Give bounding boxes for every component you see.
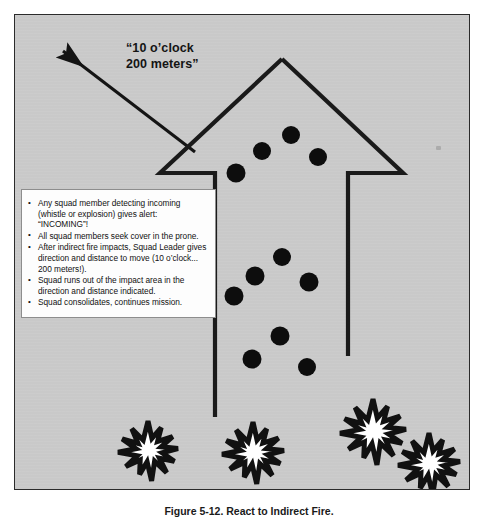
instruction-text-box: Any squad member detecting incoming (whi… [21, 189, 216, 318]
list-item: Squad consolidates, continues mission. [27, 297, 208, 308]
soldier-dot-icon [246, 267, 265, 286]
list-item: Any squad member detecting incoming (whi… [27, 198, 208, 230]
soldier-dot-icon [271, 327, 290, 346]
soldier-dot-icon [227, 164, 246, 183]
soldier-dot-icon [309, 148, 327, 166]
explosion-burst-icon [118, 421, 178, 481]
soldier-dot-icon [253, 142, 271, 160]
explosion-burst-icon [222, 422, 284, 484]
soldier-dot-icon [243, 350, 262, 369]
list-item: All squad members seek cover in the pron… [27, 231, 208, 242]
list-item: After indirect fire impacts, Squad Leade… [27, 242, 208, 274]
impact-burst-markers [118, 399, 460, 490]
explosion-burst-icon [340, 399, 406, 465]
soldier-dot-icon [273, 248, 291, 266]
squad-member-markers [225, 126, 328, 376]
direction-callout-label: “10 o’clock 200 meters” [126, 40, 272, 72]
figure-caption: Figure 5-12. React to Indirect Fire. [0, 505, 498, 518]
soldier-dot-icon [300, 273, 319, 292]
explosion-burst-icon [398, 433, 460, 490]
soldier-dot-icon [225, 287, 244, 306]
list-item: Squad runs out of the impact area in the… [27, 275, 208, 296]
scan-artifact-speck [436, 146, 441, 150]
diagram-frame: “10 o’clock 200 meters” Any squad member… [14, 14, 470, 490]
soldier-dot-icon [298, 358, 316, 376]
soldier-dot-icon [282, 126, 300, 144]
instruction-list: Any squad member detecting incoming (whi… [27, 198, 208, 308]
